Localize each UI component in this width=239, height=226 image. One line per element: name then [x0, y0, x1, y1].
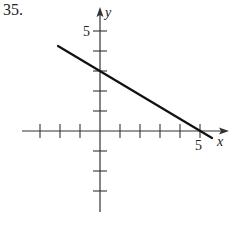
data-line — [58, 46, 212, 138]
y-axis-label: y — [103, 5, 112, 20]
x-axis-label: x — [216, 134, 224, 149]
x-tick-label-5: 5 — [195, 138, 202, 153]
y-tick-label-5: 5 — [83, 24, 90, 39]
coordinate-plane: y x 5 5 — [0, 0, 239, 226]
